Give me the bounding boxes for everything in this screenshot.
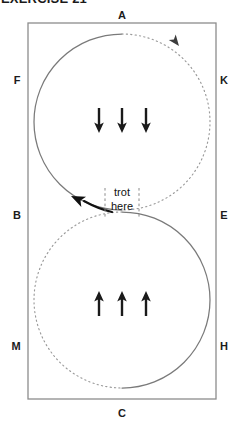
marker-b: B xyxy=(13,209,21,221)
marker-c: C xyxy=(118,407,126,419)
arena-figure-svg: trot here A F K B xyxy=(0,0,244,428)
lower-circle-solid-arc xyxy=(122,212,210,388)
lower-circle-dotted-arc xyxy=(34,212,122,388)
trot-zone-label-line-2: here xyxy=(111,200,133,212)
up-arrow-2 xyxy=(117,291,127,316)
marker-e: E xyxy=(220,209,227,221)
upper-circle-solid-arc xyxy=(34,34,122,210)
marker-a: A xyxy=(118,9,126,21)
down-arrow-2 xyxy=(117,108,127,133)
up-arrow-3 xyxy=(141,291,151,316)
marker-f: F xyxy=(14,74,21,86)
upper-circle-dotted-arc xyxy=(122,34,210,210)
down-arrow-1 xyxy=(94,108,104,133)
marker-h: H xyxy=(220,340,228,352)
marker-m: M xyxy=(11,340,20,352)
diagram-page: EXERCISE 21 trot here xyxy=(0,0,244,428)
up-arrow-1 xyxy=(94,291,104,316)
down-arrow-3 xyxy=(141,108,151,133)
trot-zone-label-line-1: trot xyxy=(114,186,130,198)
marker-k: K xyxy=(220,74,228,86)
upper-circle-direction-arrow-icon xyxy=(169,35,183,49)
